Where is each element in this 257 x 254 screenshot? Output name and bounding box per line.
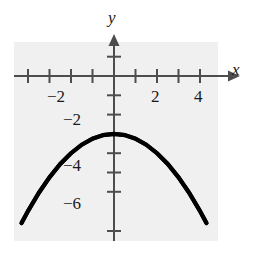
graph-figure: −2 2 4 −2 −4 −6 y x — [0, 0, 257, 254]
y-tick-label-neg4: −4 — [63, 157, 81, 174]
y-tick-label-neg6: −6 — [63, 195, 81, 212]
y-axis-arrow-icon — [109, 34, 120, 46]
graph-canvas — [0, 0, 257, 254]
y-tick-label-neg2: −2 — [63, 111, 81, 128]
x-tick-label-4: 4 — [194, 88, 203, 105]
y-axis-label: y — [108, 9, 116, 26]
x-tick-label-neg2: −2 — [47, 88, 65, 105]
x-tick-label-2: 2 — [151, 88, 160, 105]
x-axis-label: x — [232, 61, 240, 78]
